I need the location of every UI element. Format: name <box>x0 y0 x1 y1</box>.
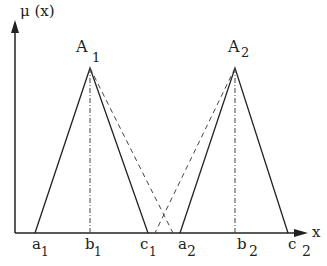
c1-label: c <box>140 235 148 253</box>
y-axis-arrow-icon <box>11 20 19 33</box>
x-axis-label: x <box>312 223 321 241</box>
set-a1-subscript: 1 <box>92 50 100 65</box>
y-axis-label: μ (x) <box>20 2 55 20</box>
c2-subscript: 2 <box>302 243 311 259</box>
a1-subscript: 1 <box>41 245 49 259</box>
b2-subscript: 2 <box>249 243 258 259</box>
a2-dashed-extension <box>155 68 235 233</box>
a1-label: a <box>32 235 41 253</box>
c1-subscript: 1 <box>149 245 157 259</box>
c2-label: c <box>288 235 296 253</box>
a2-subscript: 2 <box>187 243 196 259</box>
triangle-a2 <box>180 68 288 233</box>
b1-subscript: 1 <box>94 245 102 259</box>
set-a2-label: A <box>227 37 240 56</box>
fuzzy-membership-diagram: μ (x) x A 1 A 2 a 1 b 1 c 1 a 2 b 2 c 2 <box>0 0 327 266</box>
set-a2-subscript: 2 <box>241 45 249 60</box>
a2-label: a <box>178 235 187 253</box>
set-a1-label: A <box>75 37 88 56</box>
a1-dashed-extension <box>90 68 173 233</box>
b2-label: b <box>237 235 247 253</box>
